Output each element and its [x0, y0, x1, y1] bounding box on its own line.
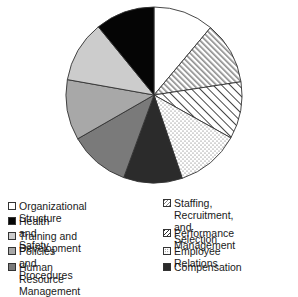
swatch-dark-gray-icon: [8, 263, 16, 271]
legend-item-compensation: Compensation: [163, 261, 242, 273]
legend-item-human-resource-management: Human Resource Management: [8, 261, 80, 297]
swatch-light-gray-icon: [8, 232, 16, 240]
swatch-dots-icon: [163, 247, 171, 255]
swatch-dense-hatch-icon: [163, 199, 171, 207]
swatch-gray-icon: [8, 247, 16, 255]
swatch-black-icon: [8, 217, 16, 225]
pie-slices: [66, 7, 242, 183]
swatch-hatch-icon: [163, 229, 171, 237]
swatch-very-dark-icon: [163, 263, 171, 271]
swatch-white-icon: [8, 202, 16, 210]
pie-chart: [0, 0, 298, 195]
